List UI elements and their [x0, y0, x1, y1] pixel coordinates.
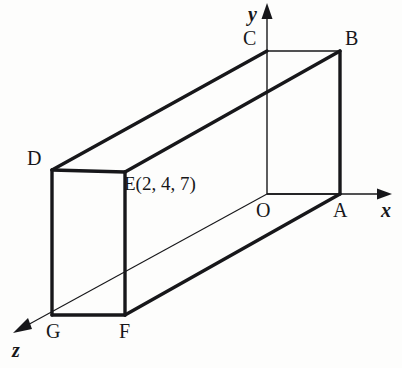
- axis-label-y: y: [248, 4, 257, 24]
- y-axis-arrowhead: [262, 3, 273, 19]
- vertex-label-E: E(2, 4, 7): [124, 174, 196, 193]
- vertex-label-F: F: [119, 321, 130, 341]
- z-axis-arrowhead: [13, 318, 32, 333]
- vertex-label-B: B: [345, 28, 358, 48]
- axis-label-x: x: [381, 200, 391, 220]
- geometry-diagram: y x z C B D E(2, 4, 7) O A G F: [0, 0, 402, 368]
- vertex-label-A: A: [333, 200, 347, 220]
- diagram-canvas: [0, 0, 402, 368]
- axis-label-z: z: [12, 340, 20, 360]
- box-edges-group: [52, 51, 340, 315]
- z-axis-line: [24, 194, 267, 327]
- vertex-label-G: G: [46, 321, 60, 341]
- vertex-label-D: D: [27, 148, 41, 168]
- vertex-label-O: O: [256, 200, 270, 220]
- edge-D-E: [52, 170, 125, 172]
- x-axis-arrowhead: [377, 189, 392, 200]
- vertex-label-C: C: [243, 28, 256, 48]
